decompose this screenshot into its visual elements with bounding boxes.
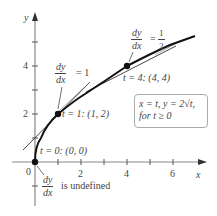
origin-label: 0 — [26, 167, 31, 177]
equation-line-2: for t ≥ 0 — [139, 110, 203, 122]
y-tick-2: 2 — [23, 109, 28, 119]
y-axis-arrow-icon — [32, 12, 38, 21]
point-t0 — [32, 159, 38, 165]
slope-t4-equals: = — [150, 34, 156, 44]
slope-t0-text: is undefined — [61, 181, 110, 191]
slope-t0-fraction: dy dx — [42, 175, 53, 198]
equation-line-1: x = t, y = 2√t, — [139, 98, 203, 110]
leader-t4 — [129, 52, 133, 62]
slope-t1-value: = 1 — [76, 68, 89, 78]
label-t1: t = 1: (1, 2) — [62, 109, 109, 119]
point-t1 — [55, 111, 61, 117]
slope-t4-half: 1 2 — [158, 28, 165, 51]
y-tick-4: 4 — [23, 61, 28, 71]
x-tick-6: 6 — [170, 169, 175, 179]
x-tick-4: 4 — [124, 169, 129, 179]
label-t0: t = 0: (0, 0) — [40, 146, 87, 156]
x-axis-label: x — [196, 170, 200, 180]
x-tick-2: 2 — [78, 169, 83, 179]
point-t4 — [124, 63, 130, 69]
equation-box: x = t, y = 2√t, for t ≥ 0 — [134, 94, 208, 128]
x-axis-arrow-icon — [198, 159, 207, 165]
label-t4: t = 4: (4, 4) — [123, 73, 170, 83]
y-axis-label: y — [24, 13, 28, 23]
slope-t4-fraction: dy dx — [131, 28, 142, 51]
leader-t1 — [58, 87, 62, 109]
slope-t1-fraction: dy dx — [55, 62, 66, 85]
